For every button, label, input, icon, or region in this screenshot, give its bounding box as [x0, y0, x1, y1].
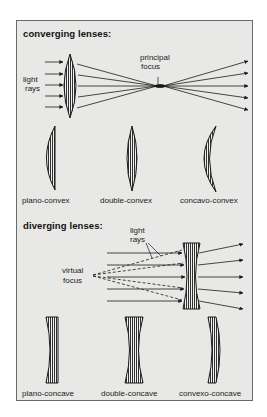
- virtual-focus-label-2: focus: [63, 276, 82, 285]
- light-rays-pointer: [146, 243, 161, 258]
- converging-main-lens-icon: [64, 54, 76, 118]
- converging-light-rays-label-1: light: [23, 75, 38, 84]
- diverging-main-lens-icon: [183, 243, 200, 309]
- principal-focus-label-2: focus: [141, 62, 160, 71]
- converging-incoming-rays: [45, 62, 63, 107]
- lens-diagram: [0, 0, 267, 417]
- concavo-convex-caption: concavo-convex: [180, 196, 238, 205]
- convexo-concave-caption: convexo-concave: [179, 389, 241, 398]
- double-convex-caption: double-convex: [100, 196, 152, 205]
- virtual-focus-label-1: virtual: [62, 266, 83, 275]
- converging-refracted-rays: [77, 61, 248, 110]
- plano-concave-lens-icon: [46, 317, 58, 383]
- convexo-concave-lens-icon: [208, 317, 220, 383]
- double-convex-lens-icon: [127, 126, 137, 191]
- double-concave-caption: double-concave: [101, 389, 157, 398]
- diverging-light-rays-label-1: light: [130, 226, 145, 235]
- diverging-light-rays-label-2: rays: [130, 235, 145, 244]
- plano-convex-caption: plano-convex: [22, 196, 70, 205]
- diverging-refracted-rays: [198, 244, 243, 309]
- plano-convex-lens-icon: [47, 126, 56, 190]
- concavo-convex-lens-icon: [204, 126, 216, 192]
- plano-concave-caption: plano-concave: [22, 389, 74, 398]
- double-concave-lens-icon: [125, 317, 143, 383]
- diverging-heading: diverging lenses:: [23, 220, 103, 231]
- diverging-virtual-rays: [93, 250, 183, 300]
- converging-heading: converging lenses:: [23, 28, 111, 39]
- converging-light-rays-label-2: rays: [25, 84, 40, 93]
- principal-focus-label-1: principal: [140, 53, 170, 62]
